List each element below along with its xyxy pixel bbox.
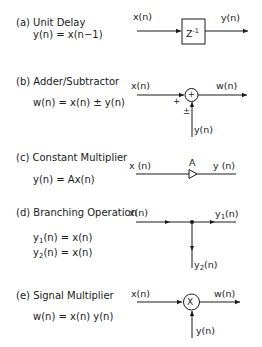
panel-b-title: (b) Adder/Subtractor	[16, 76, 119, 88]
adder-symbol: +	[188, 89, 195, 101]
panel-c-output-label: y (n)	[213, 160, 235, 172]
panel-e-second-input-label: y(n)	[196, 325, 215, 337]
panel-e-output-label: w(n)	[214, 288, 235, 300]
panel-b-output-label: w(n)	[216, 80, 237, 92]
panel-b-sign-second: ±	[183, 105, 190, 117]
multiplier-symbol: X	[187, 296, 193, 308]
panel-d-equation-1: y1(n) = x(n)	[33, 232, 92, 247]
panel-e-equation: w(n) = x(n) y(n)	[33, 311, 113, 323]
panel-d-title: (d) Branching Operation	[16, 207, 137, 219]
panel-c-input-label: x (n)	[129, 160, 151, 172]
panel-b-input-label: x(n)	[131, 80, 150, 92]
panel-a-title: (a) Unit Delay	[16, 17, 85, 29]
panel-d-output-1-label: y1(n)	[215, 208, 239, 223]
panel-a-equation: y(n) = x(n−1)	[33, 29, 103, 41]
panel-b-sign-main: +	[173, 95, 180, 107]
panel-c-equation: y(n) = Ax(n)	[33, 174, 95, 186]
panel-d-output-2-label: y2(n)	[194, 259, 218, 274]
panel-c-gain-label: A	[189, 157, 196, 169]
panel-b-equation: w(n) = x(n) ± y(n)	[33, 97, 125, 109]
panel-d-input-label: x(n)	[129, 207, 148, 219]
panel-a-input-label: x(n)	[133, 11, 152, 23]
panel-a-block-label: Z-1	[186, 25, 199, 40]
panel-d-equation-2: y2(n) = x(n)	[33, 247, 92, 262]
panel-e-input-label: x(n)	[131, 288, 150, 300]
panel-e-title: (e) Signal Multiplier	[16, 290, 114, 302]
panel-c-title: (c) Constant Multiplier	[16, 152, 127, 164]
gain-triangle	[189, 170, 197, 179]
panel-b-second-input-label: y(n)	[194, 124, 213, 136]
branching-diagram	[136, 220, 236, 268]
panel-a-output-label: y(n)	[221, 12, 240, 24]
